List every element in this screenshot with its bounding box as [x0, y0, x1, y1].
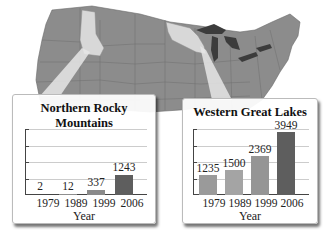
x-axis-label: Year — [13, 209, 155, 224]
bar-1989 — [59, 194, 77, 195]
bar-1999 — [87, 190, 105, 195]
category-label: 1989 — [61, 197, 91, 209]
category-label: 2006 — [117, 197, 147, 209]
value-label: 337 — [81, 176, 111, 188]
x-axis-label: Year — [183, 209, 317, 224]
bar-1999 — [251, 156, 269, 195]
chart-panel-northern-rocky: Northern Rocky Mountains 2 12 337 1243 1… — [12, 94, 156, 224]
category-label: 2006 — [277, 197, 307, 209]
value-label: 2369 — [245, 143, 275, 155]
bar-1979 — [199, 175, 217, 195]
value-label: 3949 — [271, 119, 301, 131]
value-label: 1243 — [109, 161, 139, 173]
category-label: 1999 — [89, 197, 119, 209]
value-label: 12 — [53, 180, 83, 192]
category-label: 1979 — [33, 197, 63, 209]
bar-2006 — [115, 175, 133, 195]
value-label: 1500 — [219, 157, 249, 169]
chart-panel-western-great-lakes: Western Great Lakes 1235 1500 2369 3949 … — [182, 98, 318, 224]
chart-title: Western Great Lakes — [183, 105, 317, 120]
bar-1989 — [225, 170, 243, 195]
bar-2006 — [277, 132, 295, 195]
value-label: 2 — [25, 180, 55, 192]
plot-area: 1235 1500 2369 3949 — [193, 129, 309, 195]
chart-title: Northern Rocky Mountains — [13, 101, 155, 131]
plot-area: 2 12 337 1243 — [25, 129, 147, 195]
